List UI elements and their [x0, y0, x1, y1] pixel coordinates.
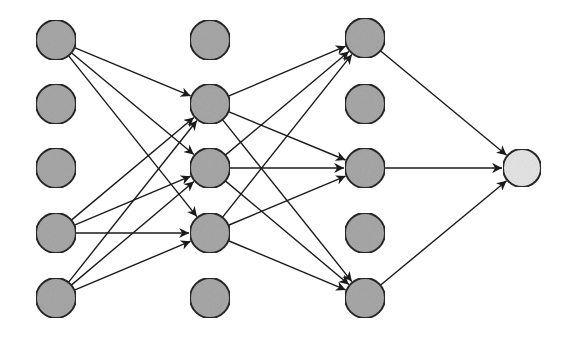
connection-arrow [68, 56, 196, 217]
neuron-node [345, 278, 385, 318]
neuron-node [36, 20, 76, 60]
connection-arrow [228, 46, 345, 96]
neuron-node [345, 18, 385, 58]
connection-arrow [228, 176, 345, 225]
connection-edges [68, 46, 506, 290]
neuron-node [345, 213, 385, 253]
neural-network-diagram [0, 0, 563, 338]
connection-arrow [74, 241, 190, 290]
neuron-node [190, 213, 230, 253]
neuron-node [190, 148, 230, 188]
neuron-node [190, 20, 230, 60]
neuron-node [36, 84, 76, 124]
neuron-node [36, 278, 76, 318]
connection-arrow [74, 48, 190, 96]
neuron-node [190, 84, 230, 124]
input-layer [36, 20, 76, 318]
neuron-node [345, 148, 385, 188]
hidden-layer-1 [190, 20, 230, 318]
connection-arrow [225, 51, 349, 155]
neuron-node [36, 213, 76, 253]
neuron-node [36, 148, 76, 188]
connection-arrow [228, 241, 345, 290]
output-neuron-node [503, 149, 541, 187]
connection-arrow [222, 54, 351, 217]
connection-arrow [71, 53, 193, 155]
hidden-layer-2 [345, 18, 385, 318]
connection-arrow [380, 181, 506, 285]
connection-arrow [71, 117, 194, 220]
connection-arrow [68, 120, 197, 282]
neuron-node [190, 278, 230, 318]
neuron-node [345, 84, 385, 124]
output-layer [503, 149, 541, 187]
connection-arrow [225, 181, 349, 285]
connection-arrow [380, 51, 506, 155]
